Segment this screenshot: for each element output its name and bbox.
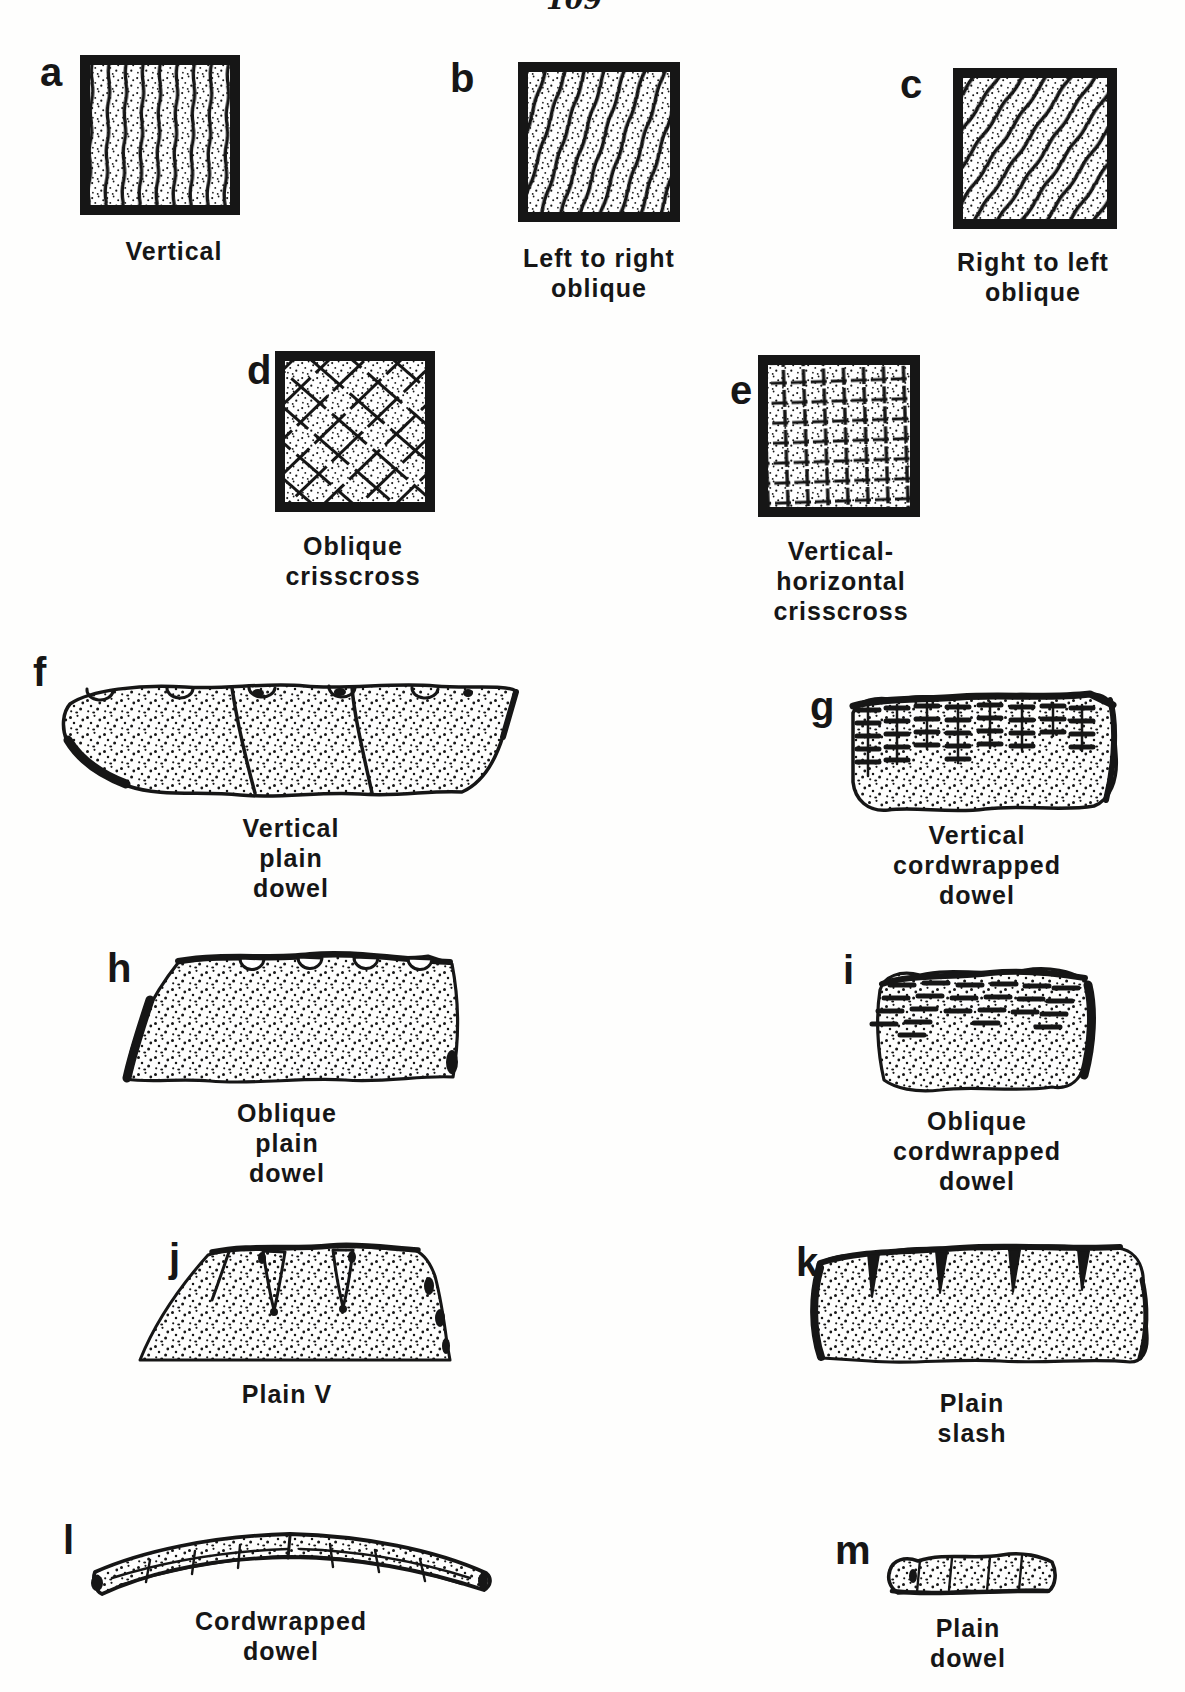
caption-line: Plain [802,1388,1142,1418]
panel-caption-f: Vertical plain dowel [121,813,461,903]
caption-line: Vertical- [671,536,1011,566]
panel-caption-j: Plain V [117,1379,457,1409]
illustration-h-oblique-plain-dowel [126,954,458,1082]
panel-caption-b: Left to right oblique [429,243,769,303]
caption-line: dowel [117,1158,457,1188]
caption-line: plain [117,1128,457,1158]
figure-page: { "page": { "paper_color": "#fefefd", "i… [0,0,1185,1692]
caption-line: Plain V [117,1379,457,1409]
caption-line: Oblique [183,531,523,561]
caption-line: dowel [798,1643,1138,1673]
caption-line: cordwrapped [807,1136,1147,1166]
panel-caption-c: Right to left oblique [863,247,1185,307]
illustration-d-oblique-crisscross [280,356,430,507]
panel-caption-m: Plain dowel [798,1613,1138,1673]
caption-line: Vertical [4,236,344,266]
caption-line: Oblique [807,1106,1147,1136]
illustration-m-plain-dowel [889,1554,1055,1593]
caption-line: crisscross [183,561,523,591]
panel-letter-k: k [796,1242,818,1282]
illustration-g-vertical-cordwrapped-dowel [853,694,1116,811]
panel-letter-c: c [900,64,922,104]
caption-line: Oblique [117,1098,457,1128]
caption-line: crisscross [671,596,1011,626]
caption-line: plain [121,843,461,873]
caption-line: dowel [807,1166,1147,1196]
caption-line: oblique [429,273,769,303]
panel-letter-l: l [63,1520,74,1560]
caption-line: Left to right [429,243,769,273]
panel-letter-b: b [450,58,474,98]
caption-line: dowel [121,873,461,903]
caption-line: horizontal [671,566,1011,596]
panel-caption-i: Oblique cordwrapped dowel [807,1106,1147,1196]
illustration-f-vertical-plain-dowel [63,685,516,796]
illustration-k-plain-slash [814,1246,1147,1363]
caption-line: Vertical [121,813,461,843]
panel-letter-a: a [40,52,62,92]
caption-line: Right to left [863,247,1185,277]
panel-caption-d: Oblique crisscross [183,531,523,591]
panel-caption-l: Cordwrapped dowel [111,1606,451,1666]
panel-letter-j: j [169,1238,180,1278]
caption-line: dowel [111,1636,451,1666]
illustration-b-left-to-right-oblique [523,67,675,217]
illustration-e-vertical-horizontal-crisscross [763,360,915,512]
illustration-j-plain-v [140,1245,450,1360]
caption-line: Plain [798,1613,1138,1643]
panel-caption-a: Vertical [4,236,344,266]
caption-line: dowel [807,880,1147,910]
caption-line: slash [802,1418,1142,1448]
caption-line: cordwrapped [807,850,1147,880]
caption-line: Cordwrapped [111,1606,451,1636]
panel-caption-h: Oblique plain dowel [117,1098,457,1188]
caption-line: Vertical [807,820,1147,850]
panel-caption-k: Plain slash [802,1388,1142,1448]
panel-letter-i: i [843,950,854,990]
panel-letter-g: g [810,686,834,726]
panel-letter-f: f [33,652,46,692]
panel-letter-h: h [107,948,131,988]
illustration-c-right-to-left-oblique [958,73,1112,224]
panel-caption-g: Vertical cordwrapped dowel [807,820,1147,910]
panel-letter-m: m [835,1530,871,1570]
illustration-a-vertical [85,60,235,210]
caption-line: oblique [863,277,1185,307]
panel-letter-d: d [247,350,271,390]
illustration-l-cordwrapped-dowel [91,1534,490,1594]
panel-letter-e: e [730,370,752,410]
illustration-i-oblique-cordwrapped-dowel [872,969,1092,1091]
panel-caption-e: Vertical- horizontal crisscross [671,536,1011,626]
